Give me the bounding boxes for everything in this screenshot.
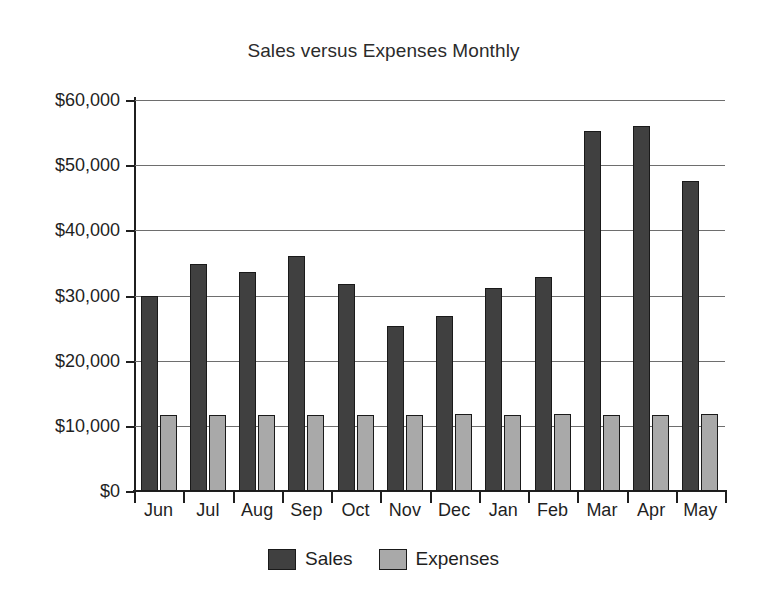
bar-expenses-apr[interactable] [652, 415, 669, 491]
bar-expenses-jun[interactable] [160, 415, 177, 491]
y-axis-label: $30,000 [8, 285, 120, 306]
legend-swatch-expenses [379, 549, 407, 570]
bar-groups [134, 100, 725, 491]
x-axis-tick [233, 492, 235, 503]
bar-sales-nov[interactable] [387, 326, 404, 491]
bar-expenses-feb[interactable] [554, 414, 571, 491]
bar-sales-mar[interactable] [584, 131, 601, 491]
bar-group-may [676, 100, 725, 491]
bar-expenses-oct[interactable] [357, 415, 374, 491]
x-axis-tick [577, 492, 579, 503]
bar-group-apr [627, 100, 676, 491]
x-axis-tick [380, 492, 382, 503]
bar-sales-sep[interactable] [288, 256, 305, 491]
bar-sales-jan[interactable] [485, 288, 502, 491]
bar-sales-feb[interactable] [535, 277, 552, 491]
bar-group-jan [479, 100, 528, 491]
bar-group-mar [577, 100, 626, 491]
bar-chart: Sales versus Expenses Monthly $60,000$50… [0, 0, 767, 600]
x-axis-label-may: May [683, 500, 717, 521]
x-axis-label-aug: Aug [241, 500, 273, 521]
bar-group-jun [134, 100, 183, 491]
x-axis-tick [725, 492, 727, 503]
bar-expenses-sep[interactable] [307, 415, 324, 491]
bar-group-jul [183, 100, 232, 491]
bar-sales-jun[interactable] [141, 296, 158, 492]
x-axis-tick [331, 492, 333, 503]
legend-item-expenses[interactable]: Expenses [379, 548, 499, 570]
x-axis-label-jan: Jan [489, 500, 518, 521]
bar-expenses-jul[interactable] [209, 415, 226, 491]
x-axis-tick [479, 492, 481, 503]
bar-group-oct [331, 100, 380, 491]
bar-expenses-aug[interactable] [258, 415, 275, 491]
bar-sales-aug[interactable] [239, 272, 256, 491]
bar-sales-dec[interactable] [436, 316, 453, 491]
chart-legend: SalesExpenses [0, 548, 767, 570]
x-axis-tick [528, 492, 530, 503]
legend-swatch-sales [268, 549, 296, 570]
x-axis-label-mar: Mar [586, 500, 617, 521]
y-axis-labels: $60,000$50,000$40,000$30,000$20,000$10,0… [8, 0, 120, 600]
x-axis-tick [430, 492, 432, 503]
legend-label-expenses: Expenses [416, 548, 499, 570]
x-axis-label-feb: Feb [537, 500, 568, 521]
x-axis-label-jun: Jun [144, 500, 173, 521]
bar-group-sep [282, 100, 331, 491]
bar-sales-apr[interactable] [633, 126, 650, 491]
bar-expenses-mar[interactable] [603, 415, 620, 491]
y-axis-label: $20,000 [8, 350, 120, 371]
x-axis-tick [134, 492, 136, 503]
y-axis-label: $50,000 [8, 155, 120, 176]
legend-item-sales[interactable]: Sales [268, 548, 353, 570]
bar-sales-may[interactable] [682, 181, 699, 491]
bar-expenses-jan[interactable] [504, 415, 521, 491]
bar-expenses-dec[interactable] [455, 414, 472, 491]
x-axis-label-jul: Jul [196, 500, 219, 521]
x-axis-label-nov: Nov [389, 500, 421, 521]
x-axis-label-sep: Sep [290, 500, 322, 521]
x-axis-tick [627, 492, 629, 503]
y-axis-label: $0 [8, 481, 120, 502]
x-axis-tick [282, 492, 284, 503]
y-axis-label: $40,000 [8, 220, 120, 241]
bar-expenses-nov[interactable] [406, 415, 423, 491]
x-axis-tick [676, 492, 678, 503]
legend-label-sales: Sales [305, 548, 353, 570]
y-axis-label: $10,000 [8, 415, 120, 436]
x-axis-label-dec: Dec [438, 500, 470, 521]
bar-group-aug [233, 100, 282, 491]
y-axis-label: $60,000 [8, 90, 120, 111]
bar-group-feb [528, 100, 577, 491]
x-axis-tick [183, 492, 185, 503]
bar-group-dec [430, 100, 479, 491]
bar-expenses-may[interactable] [701, 414, 718, 491]
bar-group-nov [380, 100, 429, 491]
x-axis-label-apr: Apr [637, 500, 665, 521]
bar-sales-jul[interactable] [190, 264, 207, 491]
bar-sales-oct[interactable] [338, 284, 355, 491]
x-axis-label-oct: Oct [342, 500, 370, 521]
